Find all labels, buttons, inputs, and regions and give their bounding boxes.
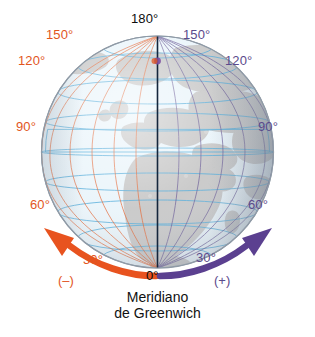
longitude-label-west-60: 60° (30, 198, 50, 211)
figure-caption: Meridiano de Greenwich (0, 289, 315, 321)
longitude-label-180: 180° (131, 12, 158, 25)
longitude-label-east-150: 150° (183, 28, 210, 41)
east-sign-label: (+) (214, 274, 230, 287)
longitude-label-west-90: 90° (16, 120, 36, 133)
longitude-label-west-150: 150° (46, 28, 73, 41)
longitude-label-west-120: 120° (18, 54, 45, 67)
longitude-label-east-90: 90° (258, 120, 278, 133)
caption-line-2: de Greenwich (0, 305, 315, 321)
longitude-label-west-30: 30° (83, 253, 103, 266)
globe-illustration (0, 0, 315, 337)
image-credit: Banco de imagens/Arquivo da editora (314, 0, 315, 8)
globe-figure: 180° 150° 120° 90° 60° 30° 150° 120° 90°… (0, 0, 315, 337)
longitude-label-0: 0° (146, 269, 159, 282)
longitude-label-east-30: 30° (196, 251, 216, 264)
caption-line-1: Meridiano (0, 289, 315, 305)
west-sign-label: (–) (58, 274, 74, 287)
longitude-label-east-120: 120° (225, 54, 252, 67)
longitude-label-east-60: 60° (248, 198, 268, 211)
